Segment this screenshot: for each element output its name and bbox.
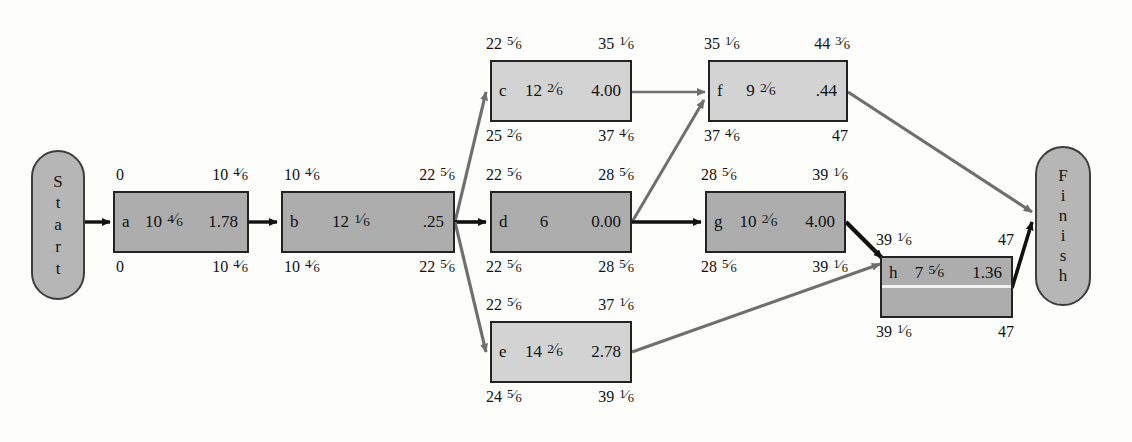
- node-e-ls: 24 5⁄6: [486, 388, 522, 406]
- node-h-duration: 7 5⁄6: [909, 263, 950, 283]
- node-f-ls: 37 4⁄6: [704, 127, 740, 145]
- node-b-es: 10 4⁄6: [284, 166, 320, 184]
- edge-b-to-c: [455, 92, 486, 222]
- node-d-ef: 28 5⁄6: [598, 166, 634, 184]
- activity-node-c[interactable]: c 12 2⁄6 4.00: [490, 60, 632, 122]
- edge-d-to-f: [632, 100, 704, 222]
- edge-h-to-finish: [1012, 222, 1032, 288]
- activity-node-h[interactable]: h 7 5⁄6 1.36: [880, 256, 1013, 318]
- node-g-es: 28 5⁄6: [701, 166, 737, 184]
- finish-terminal-label: Finish: [1058, 166, 1067, 286]
- node-g-duration: 10 2⁄6: [734, 212, 783, 232]
- node-b-id: b: [290, 212, 310, 232]
- node-a-ef: 10 4⁄6: [212, 166, 248, 184]
- node-e-es: 22 5⁄6: [486, 296, 522, 314]
- node-d-es: 22 5⁄6: [486, 166, 522, 184]
- node-h-ls: 39 1⁄6: [876, 323, 912, 341]
- node-h-id: h: [889, 263, 909, 283]
- activity-node-g[interactable]: g 10 2⁄6 4.00: [705, 191, 846, 253]
- activity-node-e[interactable]: e 14 2⁄6 2.78: [490, 321, 632, 383]
- node-f-es: 35 1⁄6: [704, 35, 740, 53]
- node-f-ef: 44 3⁄6: [814, 35, 850, 53]
- node-e-slack: 2.78: [569, 342, 623, 362]
- node-b-ls: 10 4⁄6: [284, 258, 320, 276]
- activity-node-b[interactable]: b 12 1⁄6 .25: [281, 191, 455, 253]
- node-c-lf: 37 4⁄6: [598, 127, 634, 145]
- node-d-id: d: [499, 212, 519, 232]
- network-diagram-canvas: Start Finish a 10 4⁄6 1.78 0 10 4⁄6 0 10…: [0, 0, 1132, 442]
- node-c-duration: 12 2⁄6: [519, 81, 569, 101]
- node-e-duration: 14 2⁄6: [519, 342, 569, 362]
- edge-b-to-e: [455, 222, 486, 352]
- node-c-slack: 4.00: [569, 81, 623, 101]
- node-e-id: e: [499, 342, 519, 362]
- node-a-slack: 1.78: [186, 212, 240, 232]
- node-h-ef: 47: [998, 231, 1014, 249]
- node-e-lf: 39 1⁄6: [598, 388, 634, 406]
- node-c-ls: 25 2⁄6: [486, 127, 522, 145]
- node-b-duration: 12 1⁄6: [310, 212, 392, 232]
- activity-node-f[interactable]: f 9 2⁄6 .44: [708, 60, 848, 122]
- node-g-ef: 39 1⁄6: [812, 166, 848, 184]
- node-c-id: c: [499, 81, 519, 101]
- finish-terminal[interactable]: Finish: [1035, 146, 1091, 306]
- node-c-es: 22 5⁄6: [486, 35, 522, 53]
- node-a-duration: 10 4⁄6: [142, 212, 186, 232]
- node-e-ef: 37 1⁄6: [598, 296, 634, 314]
- node-h-es: 39 1⁄6: [876, 231, 912, 249]
- node-d-duration: 6: [519, 212, 569, 232]
- node-h-slack: 1.36: [950, 263, 1004, 283]
- node-a-ls: 0: [116, 258, 124, 276]
- node-b-lf: 22 5⁄6: [419, 258, 455, 276]
- node-d-slack: 0.00: [569, 212, 623, 232]
- node-f-lf: 47: [832, 127, 848, 145]
- node-f-id: f: [717, 81, 737, 101]
- node-d-lf: 28 5⁄6: [598, 258, 634, 276]
- node-g-lf: 39 1⁄6: [812, 258, 848, 276]
- node-a-lf: 10 4⁄6: [212, 258, 248, 276]
- edge-e-to-h: [632, 264, 880, 352]
- node-g-ls: 28 5⁄6: [701, 258, 737, 276]
- node-b-ef: 22 5⁄6: [419, 166, 455, 184]
- node-f-slack: .44: [785, 81, 839, 101]
- node-f-duration: 9 2⁄6: [737, 81, 785, 101]
- node-g-id: g: [714, 212, 734, 232]
- edge-f-to-finish: [848, 92, 1032, 212]
- node-d-ls: 22 5⁄6: [486, 258, 522, 276]
- activity-node-d[interactable]: d 6 0.00: [490, 191, 632, 253]
- start-terminal[interactable]: Start: [31, 150, 85, 300]
- node-h-lf: 47: [998, 323, 1014, 341]
- node-c-ef: 35 1⁄6: [598, 35, 634, 53]
- node-g-slack: 4.00: [783, 212, 837, 232]
- node-a-id: a: [122, 212, 142, 232]
- node-b-slack: .25: [392, 212, 446, 232]
- activity-node-a[interactable]: a 10 4⁄6 1.78: [113, 191, 249, 253]
- node-a-es: 0: [116, 166, 124, 184]
- start-terminal-label: Start: [53, 171, 62, 280]
